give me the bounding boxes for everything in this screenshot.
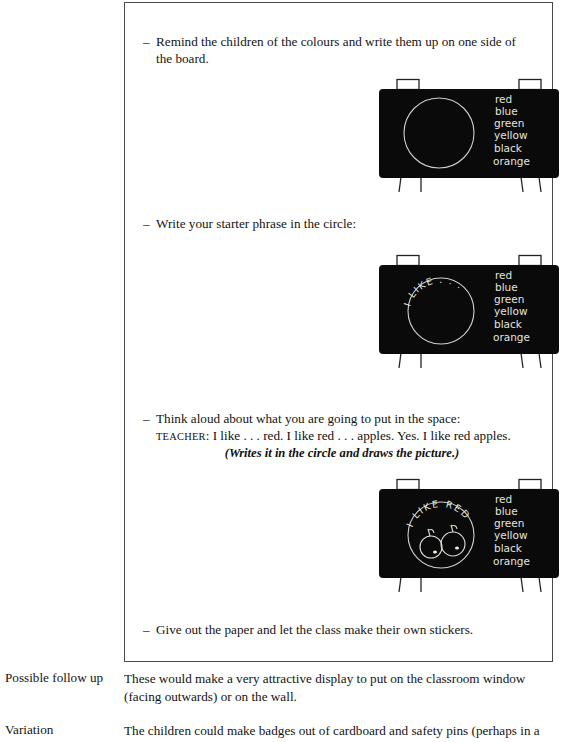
chalk-colour-green: green bbox=[494, 117, 524, 129]
chalk-colour-yellow: yellow bbox=[494, 529, 528, 541]
note-label-variation: Variation bbox=[5, 722, 117, 738]
instruction-step-4: – Give out the paper and let the class m… bbox=[143, 621, 535, 638]
chalk-colour-red: red bbox=[495, 93, 512, 105]
bullet-dash: – bbox=[143, 621, 150, 638]
apple-right-highlight bbox=[455, 547, 459, 550]
note-label-possible-follow-up: Possible follow up bbox=[5, 670, 117, 686]
chalk-colour-orange: orange bbox=[493, 155, 530, 167]
chalk-colour-green: green bbox=[494, 517, 524, 529]
chalk-colour-green: green bbox=[494, 293, 524, 305]
chalk-colour-blue: blue bbox=[495, 505, 518, 517]
chalk-colour-red: red bbox=[495, 493, 512, 505]
easel-legs-top bbox=[397, 256, 541, 266]
easel-legs-bottom bbox=[399, 177, 541, 192]
bullet-dash: – bbox=[143, 215, 150, 232]
teacher-dialogue-text: I like . . . red. I like red . . . apple… bbox=[213, 428, 511, 443]
chalk-colour-yellow: yellow bbox=[494, 129, 528, 141]
note-body-possible-follow-up: These would make a very attractive displ… bbox=[124, 670, 556, 705]
teacher-speaker-label: TEACHER bbox=[156, 431, 206, 442]
board-surface bbox=[379, 489, 559, 578]
instruction-step-2: – Write your starter phrase in the circl… bbox=[143, 215, 535, 232]
chalk-colour-black: black bbox=[494, 542, 523, 554]
teacher-dialogue-line: TEACHER: I like . . . red. I like red . … bbox=[156, 427, 536, 444]
easel-legs-top bbox=[397, 480, 541, 490]
chalk-colour-black: black bbox=[494, 142, 523, 154]
stage-direction-text: (Writes it in the circle and draws the p… bbox=[156, 446, 528, 461]
instruction-step-3: – Think aloud about what you are going t… bbox=[143, 410, 535, 427]
blackboard-illustration-3: I LIKE RED red blue green yellow black o… bbox=[371, 477, 567, 595]
easel-legs-bottom bbox=[399, 577, 541, 592]
apple-left-highlight bbox=[433, 551, 437, 554]
chalk-colour-orange: orange bbox=[493, 331, 530, 343]
blackboard-illustration-1: red blue green yellow black orange bbox=[371, 77, 567, 195]
bullet-dash: – bbox=[143, 33, 150, 50]
blackboard-illustration-2: I LIKE . . . red blue green yellow black… bbox=[371, 253, 567, 371]
chalk-colour-blue: blue bbox=[495, 281, 518, 293]
chalk-colour-blue: blue bbox=[495, 105, 518, 117]
instruction-step-4-text: Give out the paper and let the class mak… bbox=[143, 621, 535, 638]
blackboard-figure-completed-example: I LIKE RED red blue green yellow black o… bbox=[371, 477, 567, 595]
bullet-dash: – bbox=[143, 410, 150, 427]
instruction-step-1: – Remind the children of the colours and… bbox=[143, 33, 535, 68]
note-body-variation: The children could make badges out of ca… bbox=[124, 722, 556, 740]
chalk-colour-orange: orange bbox=[493, 555, 530, 567]
easel-legs-bottom bbox=[399, 353, 541, 368]
chalk-colour-yellow: yellow bbox=[494, 305, 528, 317]
dialogue-separator: : bbox=[206, 428, 210, 443]
easel-legs-top bbox=[397, 80, 541, 90]
board-surface bbox=[379, 265, 559, 354]
chalk-colour-red: red bbox=[495, 269, 512, 281]
instruction-step-2-text: Write your starter phrase in the circle: bbox=[143, 215, 535, 232]
activity-instructions-box: – Remind the children of the colours and… bbox=[124, 2, 553, 662]
blackboard-figure-colours-only: red blue green yellow black orange bbox=[371, 77, 567, 195]
instruction-step-1-text: Remind the children of the colours and w… bbox=[143, 33, 535, 68]
chalk-colour-black: black bbox=[494, 318, 523, 330]
instruction-step-3-text: Think aloud about what you are going to … bbox=[143, 410, 535, 427]
board-surface bbox=[379, 89, 559, 178]
blackboard-figure-starter-phrase: I LIKE . . . red blue green yellow black… bbox=[371, 253, 567, 371]
